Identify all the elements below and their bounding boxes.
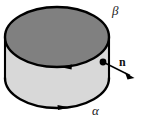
cylinder-figure: β α n xyxy=(0,0,147,122)
top-face-disk xyxy=(5,7,109,67)
normal-vector-arrowhead xyxy=(125,73,135,80)
label-normal-vector-n: n xyxy=(119,56,126,68)
label-alpha: α xyxy=(92,104,99,117)
label-beta: β xyxy=(112,4,118,17)
